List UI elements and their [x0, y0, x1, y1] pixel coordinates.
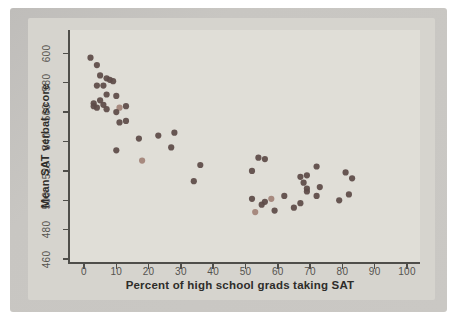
y-tick-mark [63, 141, 68, 143]
x-tick-label: 10 [102, 266, 130, 277]
y-axis-title-wrap: Mean SAT verbal score [35, 36, 49, 256]
y-tick-mark [63, 200, 68, 202]
y-tick-mark [63, 258, 68, 260]
x-axis-title: Percent of high school grads taking SAT [40, 279, 440, 291]
y-tick-mark [63, 82, 68, 84]
y-tick-mark [63, 229, 68, 231]
x-tick-label: 60 [264, 266, 292, 277]
x-tick-label: 70 [296, 266, 324, 277]
x-tick-label: 80 [328, 266, 356, 277]
y-tick-mark [63, 170, 68, 172]
scatterplot-figure: 0102030405060708090100460480500520540560… [10, 8, 447, 312]
y-tick-mark [63, 53, 68, 55]
x-tick-label: 20 [135, 266, 163, 277]
y-tick-mark [63, 111, 68, 113]
y-axis-title: Mean SAT verbal score [39, 84, 51, 208]
x-tick-label: 90 [361, 266, 389, 277]
plot-area [68, 30, 420, 264]
x-tick-label: 0 [70, 266, 98, 277]
x-tick-label: 50 [232, 266, 260, 277]
x-tick-label: 40 [199, 266, 227, 277]
x-tick-label: 30 [167, 266, 195, 277]
x-tick-label: 100 [393, 266, 421, 277]
